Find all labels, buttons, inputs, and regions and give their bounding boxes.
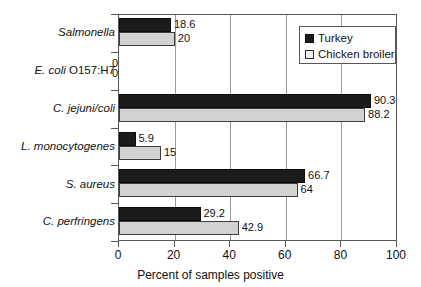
y-axis-label-perfringens: C. perfringens	[0, 215, 115, 228]
bar-perfringens-turkey	[119, 207, 201, 221]
bar-salmonella-turkey	[119, 18, 171, 32]
bar-saureus-turkey	[119, 169, 305, 183]
y-axis-tick-6	[111, 241, 118, 242]
y-axis-label-campylobacter: C. jejuni/coli	[0, 102, 115, 115]
bar-label-campylobacter-turkey: 90.3	[374, 94, 395, 106]
y-axis-tick-0	[111, 14, 118, 15]
x-axis-ticklabel-0: 0	[98, 248, 138, 262]
bar-label-perfringens-turkey: 29.2	[204, 207, 225, 219]
y-axis-label-listeria: L. monocytogenes	[0, 140, 115, 153]
bar-label-salmonella-turkey: 18.6	[174, 18, 195, 30]
x-axis-tick-20	[174, 241, 175, 247]
bar-perfringens-chicken	[119, 221, 239, 235]
legend-swatch-chicken-broiler-icon	[305, 50, 314, 59]
bar-group-campylobacter: 90.3 88.2	[119, 91, 396, 129]
bar-group-listeria: 5.9 15	[119, 129, 396, 167]
x-axis-title: Percent of samples positive	[0, 268, 421, 282]
bar-group-perfringens: 29.2 42.9	[119, 204, 396, 242]
y-axis-label-ecoli: E. coli O157:H7	[0, 64, 115, 77]
bar-group-saureus: 66.7 64	[119, 166, 396, 204]
bar-label-ecoli-chicken: 0	[112, 68, 118, 78]
x-axis-tick-100	[396, 241, 397, 247]
bar-label-listeria-turkey: 5.9	[139, 132, 154, 144]
x-axis-ticklabel-40: 40	[209, 248, 249, 262]
bar-label-listeria-chicken: 15	[164, 146, 176, 158]
bar-campylobacter-turkey	[119, 94, 371, 108]
x-axis-ticklabel-100: 100	[376, 248, 416, 262]
y-axis-label-saureus: S. aureus	[0, 178, 115, 191]
x-axis-ticklabel-80: 80	[320, 248, 360, 262]
y-axis-tick-3	[111, 128, 118, 129]
legend-entry-chicken-broiler: Chicken broiler	[305, 46, 391, 62]
x-axis-ticklabel-60: 60	[265, 248, 305, 262]
x-axis-tick-60	[285, 241, 286, 247]
legend-swatch-turkey-icon	[305, 34, 314, 43]
bar-label-salmonella-chicken: 20	[178, 32, 190, 44]
bar-label-saureus-chicken: 64	[301, 183, 313, 195]
bar-label-perfringens-chicken: 42.9	[242, 221, 263, 233]
legend-entry-turkey: Turkey	[305, 30, 391, 46]
y-axis-tick-1	[111, 52, 118, 53]
x-axis-tick-40	[229, 241, 230, 247]
legend: Turkey Chicken broiler	[299, 26, 396, 64]
bar-listeria-turkey	[119, 132, 136, 146]
x-axis-ticklabel-20: 20	[154, 248, 194, 262]
y-axis-tick-2	[111, 90, 118, 91]
y-axis-tick-4	[111, 165, 118, 166]
x-axis-tick-80	[340, 241, 341, 247]
bar-saureus-chicken	[119, 183, 298, 197]
bar-campylobacter-chicken	[119, 108, 365, 122]
y-axis-label-ecoli-genus: E. coli	[34, 64, 65, 76]
bar-label-saureus-turkey: 66.7	[308, 169, 329, 181]
y-axis-label-salmonella: Salmonella	[0, 26, 115, 39]
y-axis-label-ecoli-serotype: O157:H7	[66, 64, 115, 76]
legend-label-chicken-broiler: Chicken broiler	[318, 48, 395, 60]
legend-label-turkey: Turkey	[318, 32, 353, 44]
zero-value-labels-ecoli: 0 0	[112, 58, 118, 78]
bar-chart: 18.6 20 90.3 88.2 5.9 15 66.7 6	[0, 0, 421, 287]
x-axis-tick-0	[118, 241, 119, 247]
bar-label-campylobacter-chicken: 88.2	[368, 108, 389, 120]
bar-salmonella-chicken	[119, 32, 175, 46]
y-axis-tick-5	[111, 203, 118, 204]
bar-listeria-chicken	[119, 146, 161, 160]
